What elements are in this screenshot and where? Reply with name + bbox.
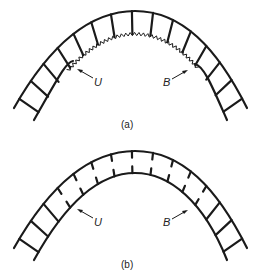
rung [206, 202, 220, 219]
panel-b: U B (b) [14, 151, 247, 270]
rung [167, 20, 173, 42]
rung [91, 22, 98, 44]
rung [182, 31, 191, 52]
rung [44, 204, 59, 222]
rung-stub-inner [80, 189, 83, 195]
caption-b: (b) [121, 259, 133, 270]
zigzag-interface [67, 32, 199, 70]
arrowhead-b [182, 210, 188, 214]
rung [206, 62, 220, 79]
caption-a: (a) [121, 119, 133, 130]
label-u: U [94, 76, 102, 88]
arrowhead-u [77, 209, 83, 213]
rung-stub-inner [113, 170, 114, 177]
rung-stub-inner [195, 199, 198, 205]
rung-stub-outer [188, 171, 191, 177]
label-u: U [94, 216, 102, 228]
rung-stub-inner [66, 202, 70, 208]
panel-a: U B (a) [14, 11, 247, 130]
arrowhead-u [77, 69, 83, 73]
rung-stub-outer [152, 153, 153, 160]
rung [31, 221, 48, 237]
rung [150, 13, 153, 36]
rung-stub-outer [91, 162, 93, 169]
rung-stub-outer [203, 186, 206, 192]
figure-canvas: U B (a) U B (b) [0, 0, 258, 277]
rung [44, 64, 59, 82]
arrowhead-b [182, 70, 188, 74]
rung-stub-inner [167, 175, 169, 181]
rung [195, 46, 206, 65]
rung [111, 14, 115, 37]
rung-stub-inner [182, 186, 185, 192]
rung [224, 99, 243, 112]
rung-stub-outer [171, 160, 173, 166]
rung [216, 220, 232, 235]
rung [216, 80, 232, 95]
rungs [19, 151, 242, 252]
label-b: B [163, 216, 170, 228]
rung-stub-outer [58, 188, 62, 194]
rung-stub-inner [96, 178, 98, 185]
rung-stub-inner [150, 168, 151, 175]
rung [58, 48, 71, 68]
rungs [19, 11, 242, 112]
rung [223, 239, 242, 252]
rung [19, 99, 38, 112]
inner-strand [34, 173, 227, 260]
rung [19, 239, 38, 252]
rung [31, 81, 48, 97]
label-b: B [163, 76, 170, 88]
rung-stub-outer [111, 154, 112, 161]
rung-stub-outer [74, 174, 77, 180]
rung [74, 34, 84, 55]
